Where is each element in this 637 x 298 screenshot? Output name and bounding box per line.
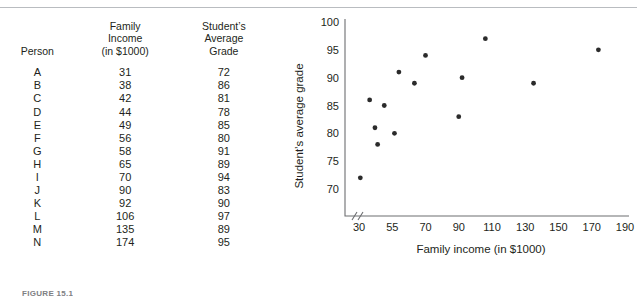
data-point [392, 131, 397, 136]
cell-grade: 78 [176, 106, 272, 119]
x-tick-label: 90 [453, 221, 465, 233]
cell-income: 174 [75, 236, 176, 249]
table-row: E4985 [0, 119, 272, 132]
table-row: G5891 [0, 145, 272, 158]
data-point [375, 142, 380, 147]
cell-person: B [0, 79, 75, 92]
table-row: C4281 [0, 92, 272, 105]
cell-income: 90 [75, 184, 176, 197]
table-row: I7094 [0, 171, 272, 184]
y-tick-label: 90 [327, 72, 339, 84]
header-line: Income [75, 32, 176, 44]
table-row: F5680 [0, 132, 272, 145]
y-tick-label: 70 [327, 183, 339, 195]
column-header-person: Person [0, 20, 75, 57]
x-tick-label: 30 [353, 221, 365, 233]
y-tick-label: 80 [327, 127, 339, 139]
cell-person: G [0, 145, 75, 158]
cell-grade: 83 [176, 184, 272, 197]
x-tick-label: 190 [616, 221, 634, 233]
table-body: A3172B3886C4281D4478E4985F5680G5891H6589… [0, 57, 272, 249]
cell-income: 42 [75, 92, 176, 105]
scatter-plot-svg: 707580859095100 30557090110130150170190 … [288, 8, 637, 288]
cell-income: 70 [75, 171, 176, 184]
header-line: Family [75, 20, 176, 32]
data-point [358, 175, 363, 180]
data-point [382, 103, 387, 108]
x-tick-label: 130 [516, 221, 534, 233]
header-line: Average [176, 32, 272, 44]
table-row: J9083 [0, 184, 272, 197]
cell-income: 49 [75, 119, 176, 132]
y-tick-label: 95 [327, 44, 339, 56]
data-point [483, 36, 488, 41]
x-tick-label: 150 [549, 221, 567, 233]
x-axis-title: Family income (in $1000) [416, 243, 545, 255]
cell-income: 135 [75, 223, 176, 236]
y-tick-label: 100 [321, 16, 339, 28]
cell-grade: 80 [176, 132, 272, 145]
cell-income: 31 [75, 66, 176, 79]
cell-person: C [0, 92, 75, 105]
cell-grade: 95 [176, 236, 272, 249]
table-row: K9290 [0, 197, 272, 210]
table-header-row: Person Family Income (in $1000) Student’… [0, 20, 272, 57]
x-tick-label: 110 [483, 221, 501, 233]
cell-person: E [0, 119, 75, 132]
table-row: D4478 [0, 106, 272, 119]
column-header-family-income: Family Income (in $1000) [75, 20, 176, 57]
y-axis-tick-labels: 707580859095100 [321, 16, 339, 195]
cell-income: 106 [75, 210, 176, 223]
cell-income: 58 [75, 145, 176, 158]
header-line: Student’s [176, 20, 272, 32]
cell-income: 65 [75, 158, 176, 171]
cell-grade: 89 [176, 223, 272, 236]
figure-caption: FIGURE 15.1 [22, 289, 73, 298]
data-point [460, 75, 465, 80]
x-tick-label: 70 [419, 221, 431, 233]
column-header-student-average-grade: Student’s Average Grade [176, 20, 272, 57]
cell-income: 44 [75, 106, 176, 119]
y-tick-label: 75 [327, 155, 339, 167]
scatter-plot: 707580859095100 30557090110130150170190 … [288, 8, 637, 288]
y-axis-title: Student’s average grade [293, 63, 305, 188]
cell-person: L [0, 210, 75, 223]
cell-grade: 97 [176, 210, 272, 223]
table-row: L10697 [0, 210, 272, 223]
table-row: H6589 [0, 158, 272, 171]
cell-person: K [0, 197, 75, 210]
header-line: Grade [176, 45, 272, 57]
cell-income: 92 [75, 197, 176, 210]
cell-grade: 91 [176, 145, 272, 158]
cell-grade: 86 [176, 79, 272, 92]
cell-person: D [0, 106, 75, 119]
header-line: Person [0, 45, 75, 57]
cell-grade: 81 [176, 92, 272, 105]
table-row: A3172 [0, 66, 272, 79]
cell-person: A [0, 66, 75, 79]
cell-person: M [0, 223, 75, 236]
plot-axes [345, 19, 629, 216]
spacer-cell [75, 57, 176, 66]
cell-grade: 89 [176, 158, 272, 171]
person-income-grade-table: Person Family Income (in $1000) Student’… [0, 20, 272, 250]
data-point [412, 81, 417, 86]
cell-income: 56 [75, 132, 176, 145]
cell-person: I [0, 171, 75, 184]
data-point [596, 47, 601, 52]
table-row: N17495 [0, 236, 272, 249]
header-line: (in $1000) [75, 45, 176, 57]
data-point [373, 125, 378, 130]
cell-person: N [0, 236, 75, 249]
spacer-cell [176, 57, 272, 66]
cell-grade: 94 [176, 171, 272, 184]
cell-income: 38 [75, 79, 176, 92]
table-row: M13589 [0, 223, 272, 236]
data-point [397, 70, 402, 75]
spacer-cell [0, 57, 75, 66]
cell-person: H [0, 158, 75, 171]
y-tick-label: 85 [327, 100, 339, 112]
cell-grade: 90 [176, 197, 272, 210]
x-tick-label: 55 [386, 221, 398, 233]
data-table: Person Family Income (in $1000) Student’… [0, 20, 272, 250]
